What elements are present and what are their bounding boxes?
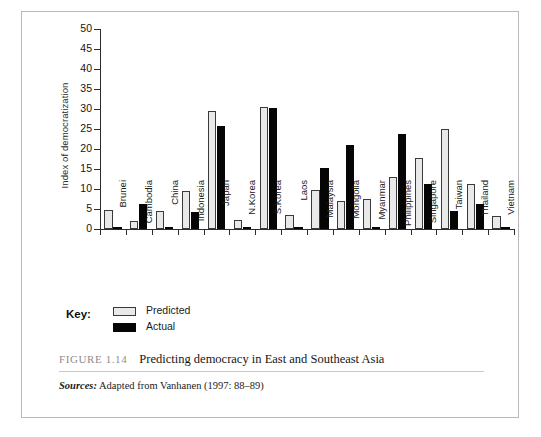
legend-label-actual: Actual [146,320,175,332]
y-tick-label: 45 [80,42,92,54]
x-category-label: Taiwan [453,180,464,238]
bar-predicted [156,211,164,229]
x-category-label: Laos [298,180,309,238]
x-category-label: S.Korea [272,180,283,238]
y-tick-label: 20 [80,142,92,154]
x-category-label: Philippines [402,180,413,238]
figure-caption-text: Predicting democracy in East and Southea… [139,352,384,367]
y-tick-label: 5 [86,202,92,214]
bar-predicted [337,201,345,229]
source-text: Adapted from Vanhanen (1997: 88–89) [99,380,264,391]
x-tick-mark [100,230,101,235]
x-category-label: Japan [220,180,231,238]
figure-source: Sources: Adapted from Vanhanen (1997: 88… [59,380,264,391]
bar-predicted [182,191,190,229]
x-category-label: Malaysia [324,180,335,238]
x-category-label: China [169,180,180,238]
y-tick-label: 35 [80,82,92,94]
bar-predicted [467,184,475,229]
bar-predicted [389,177,397,229]
bar-predicted [104,210,112,229]
x-category-label: Mongolia [350,180,361,238]
x-category-label: Indonesia [195,180,206,238]
bar-predicted [260,107,268,229]
figure-caption-block: FIGURE 1.14Predicting democracy in East … [59,349,489,367]
y-tick-label: 30 [80,102,92,114]
bar-predicted [441,129,449,229]
y-tick-label: 10 [80,182,92,194]
bar-predicted [415,158,423,229]
legend-title: Key: [66,308,91,320]
x-category-label: Singapore [427,180,438,238]
bar-predicted [492,216,500,229]
y-tick-label: 50 [80,22,92,34]
x-category-label: N.Korea [246,180,257,238]
y-axis-title: Index of democratization [59,56,70,216]
caption-divider [59,371,484,372]
bar-chart: Index of democratization 051015202530354… [22,12,520,302]
bar-predicted [208,111,216,229]
bar-predicted [130,221,138,229]
source-label: Sources: [59,380,97,391]
x-category-label: Brunei [117,180,128,238]
legend-label-predicted: Predicted [146,304,190,316]
y-tick-label: 0 [86,222,92,234]
x-category-label: Cambodia [143,180,154,238]
bar-predicted [285,215,293,229]
bar-predicted [234,220,242,229]
figure-page-frame: Index of democratization 051015202530354… [21,11,519,418]
x-category-label: Myanmar [376,180,387,238]
y-tick-label: 25 [80,122,92,134]
y-tick-label: 40 [80,62,92,74]
x-category-label: Thailand [479,180,490,238]
bar-predicted [311,190,319,229]
y-tick-label: 15 [80,162,92,174]
figure-number: FIGURE 1.14 [59,353,127,365]
legend-swatch-actual [113,323,136,332]
legend-swatch-predicted [113,307,136,316]
bar-predicted [363,199,371,229]
x-category-label: Vietnam [505,180,516,238]
